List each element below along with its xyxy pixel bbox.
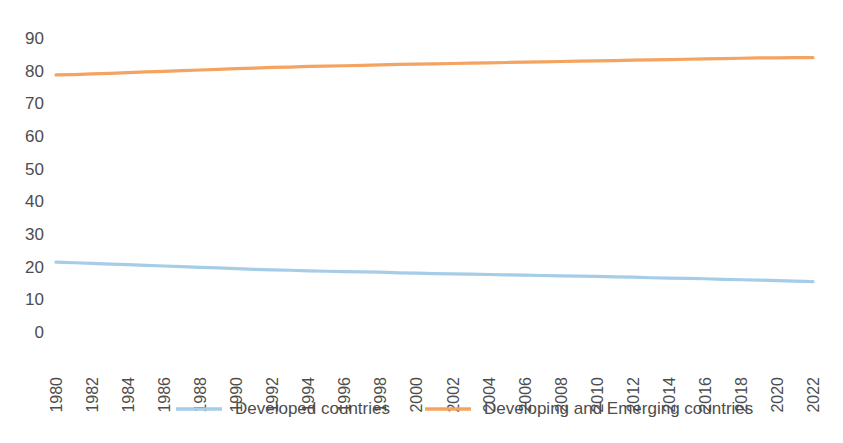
x-axis-tick-label: 2000 bbox=[408, 377, 425, 413]
y-axis-tick-label: 90 bbox=[25, 29, 44, 48]
chart-plot-area: 0102030405060708090 19801982198419861988… bbox=[0, 0, 843, 443]
y-axis-tick-label: 70 bbox=[25, 94, 44, 113]
y-axis-tick-label: 50 bbox=[25, 160, 44, 179]
x-axis-tick-label: 1986 bbox=[156, 377, 173, 413]
y-axis-tick-label: 60 bbox=[25, 127, 44, 146]
legend-item-label[interactable]: Developed countries bbox=[235, 399, 390, 418]
chart-background bbox=[0, 0, 843, 443]
y-axis-tick-label: 30 bbox=[25, 225, 44, 244]
x-axis-tick-label: 2022 bbox=[805, 377, 822, 413]
x-axis-tick-label: 2020 bbox=[769, 377, 786, 413]
legend-item-label[interactable]: Developing and Emerging countries bbox=[484, 399, 753, 418]
y-axis-tick-label: 80 bbox=[25, 62, 44, 81]
y-axis-tick-label: 0 bbox=[35, 323, 44, 342]
x-axis-tick-label: 1984 bbox=[120, 377, 137, 413]
y-axis-tick-label: 10 bbox=[25, 290, 44, 309]
x-axis-tick-label: 1980 bbox=[48, 377, 65, 413]
line-chart-container: 0102030405060708090 19801982198419861988… bbox=[0, 0, 843, 443]
x-axis-tick-label: 1982 bbox=[84, 377, 101, 413]
y-axis-tick-label: 20 bbox=[25, 258, 44, 277]
y-axis-tick-label: 40 bbox=[25, 192, 44, 211]
